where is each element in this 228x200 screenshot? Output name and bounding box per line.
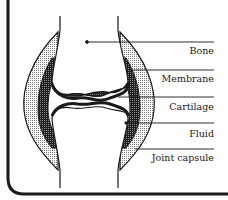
label-cartilage: Cartilage [169, 102, 214, 112]
joint-diagram [0, 0, 228, 200]
lower-bone [52, 107, 128, 188]
upper-bone [52, 16, 128, 96]
label-fluid: Fluid [189, 129, 214, 139]
label-membrane: Membrane [162, 74, 214, 84]
label-bone: Bone [190, 46, 214, 56]
label-joint-capsule: Joint capsule [152, 153, 214, 163]
